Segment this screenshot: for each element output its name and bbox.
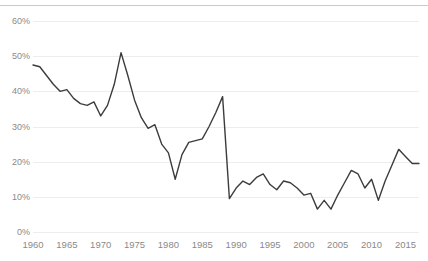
y-axis-tick-label: 40% bbox=[2, 86, 30, 96]
x-axis-tick-label: 2000 bbox=[293, 239, 314, 250]
y-axis-tick-label: 60% bbox=[2, 16, 30, 26]
y-axis-tick-label: 30% bbox=[2, 122, 30, 132]
y-axis-tick-label: 0% bbox=[2, 227, 30, 237]
series-1-polyline bbox=[33, 53, 419, 209]
title-divider bbox=[0, 5, 428, 6]
x-axis-tick-label: 1970 bbox=[90, 239, 111, 250]
x-axis-tick-label: 1975 bbox=[124, 239, 145, 250]
x-axis-tick-label: 1980 bbox=[158, 239, 179, 250]
gridline bbox=[33, 232, 419, 233]
y-axis-tick-label: 50% bbox=[2, 51, 30, 61]
plot-area bbox=[33, 21, 419, 232]
x-axis-tick-label: 1985 bbox=[192, 239, 213, 250]
x-axis-tick-label: 1995 bbox=[259, 239, 280, 250]
x-axis-tick-label: 2010 bbox=[361, 239, 382, 250]
y-axis-labels: 0%10%20%30%40%50%60% bbox=[0, 21, 30, 232]
x-axis-tick-label: 1990 bbox=[226, 239, 247, 250]
x-axis-tick-label: 1965 bbox=[56, 239, 77, 250]
x-axis-tick-label: 2005 bbox=[327, 239, 348, 250]
x-axis-labels: 1960196519701975198019851990199520002005… bbox=[33, 239, 419, 253]
x-axis-tick-label: 1960 bbox=[22, 239, 43, 250]
y-axis-tick-label: 20% bbox=[2, 157, 30, 167]
line-series bbox=[33, 21, 419, 232]
chart-container: 0%10%20%30%40%50%60% 1960196519701975198… bbox=[0, 0, 428, 261]
x-axis-tick-label: 2015 bbox=[395, 239, 416, 250]
y-axis-tick-label: 10% bbox=[2, 192, 30, 202]
